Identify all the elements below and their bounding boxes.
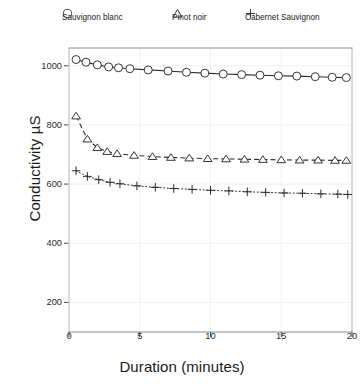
data-point bbox=[261, 188, 270, 197]
data-point bbox=[164, 67, 172, 75]
data-point bbox=[115, 64, 123, 72]
data-point bbox=[343, 190, 352, 199]
data-point bbox=[185, 154, 194, 161]
data-point bbox=[130, 152, 139, 159]
data-point bbox=[72, 112, 81, 119]
data-point bbox=[317, 190, 326, 199]
x-tick-label: 5 bbox=[120, 331, 160, 341]
data-point bbox=[298, 189, 307, 198]
data-point bbox=[243, 187, 252, 196]
data-point bbox=[144, 66, 152, 74]
data-point bbox=[93, 61, 101, 69]
series-sauvignon-blanc bbox=[72, 56, 350, 82]
data-point bbox=[82, 58, 90, 66]
data-point bbox=[256, 71, 264, 79]
data-point bbox=[116, 179, 125, 188]
data-point bbox=[83, 135, 92, 142]
x-tick-label: 20 bbox=[332, 331, 364, 341]
y-axis-title: Conductivity µS bbox=[26, 39, 43, 299]
data-point bbox=[311, 73, 319, 81]
data-point bbox=[83, 172, 92, 181]
data-point bbox=[342, 157, 351, 164]
data-point bbox=[238, 71, 246, 79]
data-point bbox=[201, 69, 209, 77]
x-tick-label: 10 bbox=[191, 331, 231, 341]
data-point bbox=[274, 72, 282, 80]
x-axis-title: Duration (minutes) bbox=[0, 358, 364, 375]
data-point bbox=[113, 150, 122, 157]
data-point bbox=[225, 187, 234, 196]
data-point bbox=[334, 190, 343, 199]
data-point bbox=[277, 156, 286, 163]
data-point bbox=[126, 65, 134, 73]
data-point bbox=[106, 178, 115, 187]
data-point bbox=[342, 74, 350, 82]
data-point bbox=[169, 184, 178, 193]
series-pinot-noir bbox=[72, 112, 351, 163]
x-tick-label: 15 bbox=[261, 331, 301, 341]
data-point bbox=[94, 175, 103, 184]
data-point bbox=[72, 56, 80, 64]
data-point bbox=[105, 63, 113, 71]
series-cabernet-sauvignon bbox=[72, 166, 352, 198]
x-axis-tick-labels: 05101520 bbox=[0, 331, 364, 347]
x-tick-label: 0 bbox=[49, 331, 89, 341]
data-point bbox=[72, 166, 81, 175]
data-point bbox=[182, 68, 190, 76]
chart-figure: Sauvignon blanc Pinot noir Cabernet Sauv… bbox=[0, 0, 364, 386]
data-point bbox=[188, 185, 197, 194]
data-point bbox=[328, 73, 336, 81]
data-point bbox=[219, 70, 227, 78]
y-tick-label: 200 bbox=[22, 297, 62, 307]
data-point bbox=[206, 186, 215, 195]
data-point bbox=[103, 148, 112, 155]
data-point bbox=[293, 72, 301, 80]
